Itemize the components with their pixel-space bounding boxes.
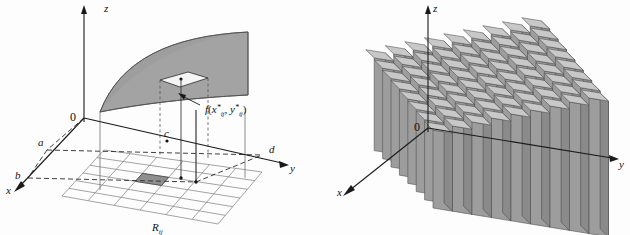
riemann-boxes-group [366,18,609,235]
bound-label-c: c [164,127,169,139]
riemann-box-face [542,105,550,227]
riemann-box-face [561,101,569,230]
f-sample-value-label: f(x*ij, y*ij) [205,103,247,118]
left-panel-svg: z y x 0 a b c d f(x*ij, y*ij) Rij [0,0,315,235]
floor-grid [62,150,262,224]
surface-sheet [100,32,248,112]
subrectangle-label: Rij [151,221,163,235]
y-axis-arrow [279,161,289,168]
z-axis-label-right: z [432,2,438,14]
riemann-box-face [503,113,511,221]
right-panel-boxes: z y x 0 [315,0,630,235]
riemann-box-face [522,109,530,224]
highlighted-subrectangle [135,173,168,185]
bound-label-a: a [38,136,44,148]
x-axis-line [20,118,84,186]
x-axis-label-right: x [336,186,342,198]
y-axis-label: y [289,162,295,174]
left-panel-surface: z y x 0 a b c d f(x*ij, y*ij) Rij [0,0,315,235]
riemann-box-face [581,97,589,234]
origin-label-right: 0 [414,120,420,134]
figure-root: z y x 0 a b c d f(x*ij, y*ij) Rij [0,0,630,235]
x-axis-arrow-right [343,185,355,196]
x-axis-label: x [5,184,11,196]
riemann-box-face [600,93,608,235]
y-axis-label-right: y [618,158,624,170]
origin-label-left: 0 [70,110,76,124]
y-axis-arrow-right [609,155,619,162]
z-axis-label: z [103,2,109,14]
sample-point-floor [179,176,182,179]
bound-label-b: b [15,169,21,181]
y-axis-line [84,118,282,163]
right-panel-svg: z y x 0 [315,0,630,235]
c-tick-dot [165,139,168,142]
riemann-box-face [483,117,491,218]
sample-point-grid [194,180,197,183]
bound-label-d: d [269,143,275,155]
z-axis-arrow-right [425,5,431,14]
riemann-box-face [444,125,452,211]
z-axis-arrow [81,5,87,14]
